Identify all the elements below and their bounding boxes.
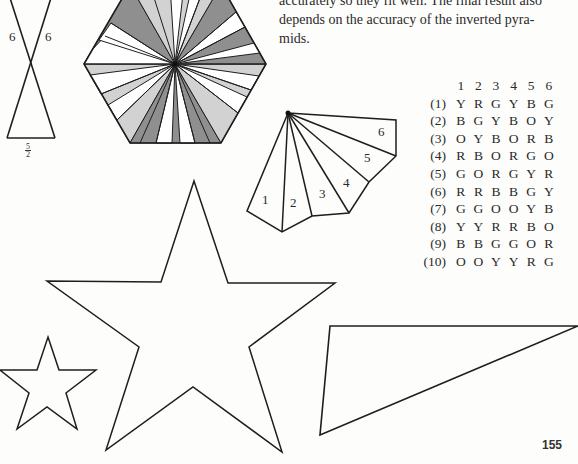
row-label: (3) [416, 130, 452, 148]
row-label: (5) [416, 165, 452, 183]
row-label: (6) [416, 183, 452, 201]
table-cell: Y [522, 165, 540, 183]
table-cell: R [505, 218, 523, 236]
table-cell: B [540, 200, 558, 218]
table-cell: R [470, 183, 488, 201]
table-cell: G [505, 235, 523, 253]
page-number: 155 [542, 438, 562, 452]
table-cell: R [540, 165, 558, 183]
table-cell: O [522, 235, 540, 253]
row-label: (2) [416, 112, 452, 130]
table-cell: Y [505, 95, 523, 113]
table-row: (1) Y R G Y B G [416, 95, 558, 113]
table-cell: O [470, 253, 488, 271]
table-cell: G [487, 235, 505, 253]
row-label: (9) [416, 235, 452, 253]
table-cell: G [522, 183, 540, 201]
table-cell: B [522, 95, 540, 113]
table-cell: O [540, 147, 558, 165]
table-cell: G [470, 112, 488, 130]
row-label: (10) [416, 253, 452, 271]
table-cell: B [452, 112, 470, 130]
table-cell: G [522, 147, 540, 165]
hourglass-template [7, 0, 55, 138]
table-cell: O [470, 165, 488, 183]
table-cell: G [487, 95, 505, 113]
table-cell: B [487, 130, 505, 148]
table-cell: B [487, 183, 505, 201]
table-cell: B [505, 112, 523, 130]
column-header: 6 [540, 77, 558, 95]
table-cell: B [470, 147, 488, 165]
hourglass-base-label: 5 2 [25, 143, 31, 158]
table-cell: Y [470, 218, 488, 236]
table-cell: G [505, 165, 523, 183]
table-cell: R [470, 95, 488, 113]
table-cell: Y [452, 95, 470, 113]
table-cell: G [452, 165, 470, 183]
table-row: (9) B B G G O R [416, 235, 558, 253]
row-label: (8) [416, 218, 452, 236]
fraction-numerator: 5 [25, 143, 31, 150]
table-cell: G [540, 253, 558, 271]
table-cell: R [522, 253, 540, 271]
header-spacer [416, 77, 452, 95]
table-cell: O [522, 112, 540, 130]
table-cell: O [505, 200, 523, 218]
table-cell: Y [505, 253, 523, 271]
fan-label-1: 1 [262, 192, 269, 208]
table-row: (2) B G Y B O Y [416, 112, 558, 130]
fraction-denominator: 2 [25, 151, 31, 158]
table-cell: R [487, 218, 505, 236]
fan-label-5: 5 [364, 150, 371, 166]
table-cell: B [470, 235, 488, 253]
column-header: 2 [470, 77, 488, 95]
fan-template [247, 111, 396, 233]
shaded-hexagon [84, 0, 266, 143]
table-cell: B [452, 235, 470, 253]
column-header: 4 [505, 77, 523, 95]
table-row: (3) O Y B O R B [416, 130, 558, 148]
table-cell: O [540, 218, 558, 236]
table-row: (7) G G O O Y B [416, 200, 558, 218]
table-row: (6) R R B B G Y [416, 183, 558, 201]
large-star-template [47, 181, 335, 452]
row-label: (7) [416, 200, 452, 218]
triangle-template [320, 326, 578, 435]
fan-label-2: 2 [290, 195, 297, 211]
fan-label-4: 4 [343, 175, 350, 191]
table-row: (8) Y Y R R B O [416, 218, 558, 236]
table-cell: O [487, 200, 505, 218]
color-table: 1 2 3 4 5 6 (1) Y R G Y B G (2) B G Y B … [416, 77, 558, 271]
table-cell: Y [470, 130, 488, 148]
table-cell: O [487, 147, 505, 165]
table-cell: G [452, 200, 470, 218]
table-cell: R [505, 147, 523, 165]
table-row: (10) O O Y Y R G [416, 253, 558, 271]
fan-label-3: 3 [319, 186, 326, 202]
table-row: (4) R B O R G O [416, 147, 558, 165]
fan-label-6: 6 [378, 124, 385, 140]
row-label: (1) [416, 95, 452, 113]
table-cell: G [470, 200, 488, 218]
small-star-template [0, 337, 96, 429]
hourglass-side-label-right: 6 [45, 29, 52, 45]
table-cell: R [522, 130, 540, 148]
table-cell: R [452, 183, 470, 201]
table-cell: B [522, 218, 540, 236]
table-cell: O [452, 253, 470, 271]
table-cell: R [540, 235, 558, 253]
table-cell: B [505, 183, 523, 201]
table-row: (5) G O R G Y R [416, 165, 558, 183]
column-header: 5 [522, 77, 540, 95]
table-cell: B [540, 130, 558, 148]
table-cell: Y [540, 183, 558, 201]
table-cell: R [487, 165, 505, 183]
book-page: accurately so they fit well. The final r… [0, 0, 578, 464]
table-cell: Y [487, 112, 505, 130]
table-cell: O [452, 130, 470, 148]
row-label: (4) [416, 147, 452, 165]
column-header: 1 [452, 77, 470, 95]
hourglass-side-label-left: 6 [9, 29, 16, 45]
table-cell: O [505, 130, 523, 148]
